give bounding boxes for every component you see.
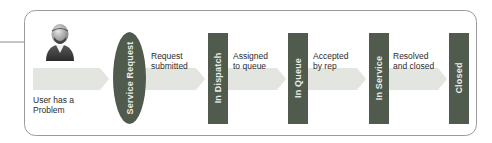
stage-label-in-queue: In Queue [293, 43, 303, 113]
actor-label: User has a Problem [33, 95, 74, 115]
stage-label-in-dispatch: In Dispatch [213, 43, 223, 113]
arrow-dispatch-to-queue [228, 68, 286, 90]
transition-label-assigned-to-queue: Assigned to queue [233, 51, 268, 71]
service-request-flow-diagram: Service Request In Dispatch In Queue In … [0, 0, 492, 143]
arrow-service-to-closed [389, 68, 447, 90]
arrow-queue-to-service [308, 68, 366, 90]
stage-label-in-service: In Service [374, 43, 384, 113]
arrow-actor-to-request [33, 68, 109, 90]
transition-label-request-submitted: Request submitted [151, 51, 188, 71]
stage-label-service-request: Service Request [125, 37, 135, 119]
transition-label-accepted-by-rep: Accepted by rep [313, 51, 348, 71]
stage-label-closed: Closed [454, 43, 464, 113]
transition-label-resolved-and-closed: Resolved and closed [393, 51, 434, 71]
arrow-request-to-dispatch [146, 68, 205, 90]
